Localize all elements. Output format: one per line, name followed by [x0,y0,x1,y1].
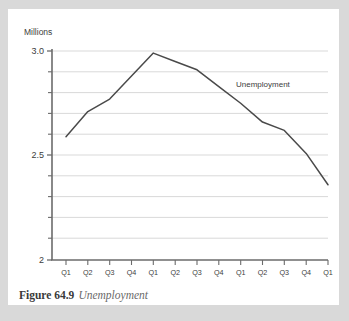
y-tick-label-3-0: 3.0 [31,46,44,56]
unemployment-series-line [66,53,328,185]
x-year-labels: 1992 1993 1994 1995 [90,279,337,281]
x-year-label-1995: 1995 [319,279,337,281]
x-tick-label-12: Q1 [323,268,333,277]
x-tick-label-6: Q3 [192,268,202,277]
x-tick-label-4: Q1 [149,268,159,277]
x-tick-label-1: Q2 [83,268,93,277]
y-tick-label-2-0: 2 [39,255,44,265]
x-tick-label-8: Q1 [236,268,246,277]
figure-caption-number: Figure 64.9 [19,289,74,301]
x-tick-label-11: Q4 [301,268,311,277]
figure-caption-title: Unemployment [78,289,148,301]
figure-caption: Figure 64.9Unemployment [19,289,148,301]
x-tick-label-3: Q4 [127,268,137,277]
x-tick-label-10: Q3 [280,268,290,277]
x-tick-label-2: Q3 [105,268,115,277]
x-tick-label-7: Q4 [214,268,224,277]
x-year-label-1992: 1992 [90,279,107,281]
x-tick-label-0: Q1 [61,268,71,277]
line-chart: Millions 3.0 2.5 2 [8,9,339,281]
y-tick-label-2-5: 2.5 [31,150,44,160]
series-annotation-label: Unemployment [236,80,291,89]
x-year-label-1994: 1994 [265,279,283,281]
x-tick-labels: Q1 Q2 Q3 Q4 Q1 Q2 Q3 Q4 Q1 Q2 Q3 Q4 Q1 [61,268,333,277]
figure-page: Millions 3.0 2.5 2 [0,0,349,321]
x-tick-label-9: Q2 [258,268,268,277]
x-year-label-1993: 1993 [177,279,194,281]
x-tick-label-5: Q2 [170,268,180,277]
figure-card: Millions 3.0 2.5 2 [8,9,339,305]
y-axis-unit-label: Millions [24,27,52,37]
chart-svg: Millions 3.0 2.5 2 [8,9,339,281]
